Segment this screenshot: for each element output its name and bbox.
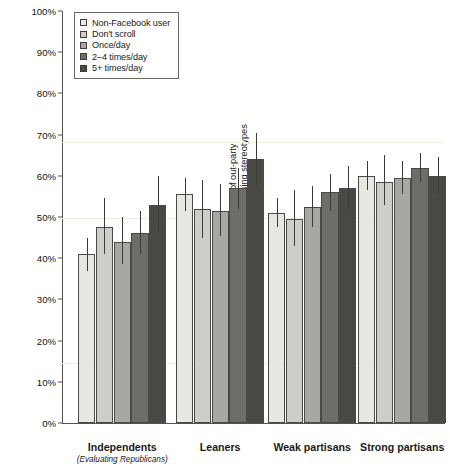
legend-swatch <box>80 65 87 72</box>
bar <box>321 192 338 423</box>
bar <box>131 233 148 423</box>
y-axis-tick-label: 30% <box>37 294 62 305</box>
error-bar <box>158 176 159 232</box>
bar-group <box>176 11 264 423</box>
bar <box>78 254 95 423</box>
bar <box>304 207 321 423</box>
y-axis-tick-label: 70% <box>37 129 62 140</box>
legend-item: Don't scroll <box>80 28 170 39</box>
error-bar <box>140 211 141 254</box>
legend-item: Once/day <box>80 40 170 51</box>
legend-item: 2–4 times/day <box>80 51 170 62</box>
legend-label: 5+ times/day <box>92 63 143 73</box>
error-bar <box>122 217 123 264</box>
error-bar <box>185 178 186 211</box>
error-bar <box>294 190 295 246</box>
y-axis-tick-label: 40% <box>37 253 62 264</box>
y-axis-tick-label: 10% <box>37 376 62 387</box>
error-bar <box>87 238 88 271</box>
legend-item: 5+ times/day <box>80 63 170 74</box>
bar <box>394 178 411 423</box>
error-bar <box>384 155 385 204</box>
y-axis-tick-label: 90% <box>37 47 62 58</box>
bar <box>247 159 264 423</box>
legend-label: Once/day <box>92 40 130 50</box>
x-axis-group-label: Strong partisans <box>322 441 450 453</box>
x-axis-line <box>62 423 445 424</box>
bar <box>229 188 246 423</box>
bar <box>376 182 393 423</box>
legend-swatch <box>80 31 87 38</box>
error-bar <box>256 133 257 187</box>
error-bar <box>238 168 239 209</box>
bar <box>429 176 446 423</box>
error-bar <box>438 157 439 194</box>
legend: Non-Facebook userDon't scrollOnce/day2–4… <box>74 12 179 79</box>
bar <box>358 176 375 423</box>
bar <box>114 242 131 423</box>
legend-swatch <box>80 53 87 60</box>
error-bar <box>312 186 313 227</box>
bar-group <box>268 11 356 423</box>
error-bar <box>104 198 105 254</box>
bar <box>194 209 211 423</box>
bar <box>212 211 229 423</box>
legend-swatch <box>80 19 87 26</box>
bar <box>268 213 285 423</box>
legend-label: Don't scroll <box>92 29 136 39</box>
error-bar <box>277 198 278 227</box>
y-axis-title: Mean estimate of percent of out-party ad… <box>2 0 26 440</box>
x-axis-group-sublabel: (Evaluating Republicans) <box>42 455 202 464</box>
error-bar <box>348 166 349 209</box>
y-axis-tick-label: 0% <box>42 418 62 429</box>
error-bar <box>220 184 221 236</box>
bar <box>176 194 193 423</box>
y-axis-tick-label: 80% <box>37 88 62 99</box>
bar-chart: Mean estimate of percent of out-party ad… <box>0 0 450 468</box>
bar <box>411 168 428 423</box>
legend-item: Non-Facebook user <box>80 17 170 28</box>
bar <box>149 205 166 423</box>
y-axis-tick-label: 50% <box>37 212 62 223</box>
bar <box>286 219 303 423</box>
error-bar <box>367 161 368 190</box>
legend-label: 2–4 times/day <box>92 52 147 62</box>
y-axis-tick-label: 20% <box>37 335 62 346</box>
error-bar <box>402 161 403 194</box>
bar-group <box>358 11 446 423</box>
legend-label: Non-Facebook user <box>92 18 170 28</box>
bar <box>339 188 356 423</box>
error-bar <box>202 180 203 238</box>
error-bar <box>330 174 331 211</box>
y-axis-tick-label: 60% <box>37 170 62 181</box>
error-bar <box>420 153 421 182</box>
legend-swatch <box>80 42 87 49</box>
y-axis-tick-label: 100% <box>31 6 62 17</box>
bar <box>96 227 113 423</box>
